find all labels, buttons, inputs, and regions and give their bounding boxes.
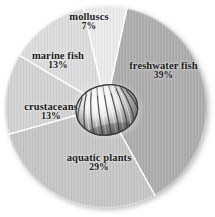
pie-label-aquatic-plants-percent: 29% <box>46 162 152 172</box>
pie-label-molluscs-percent: 7% <box>52 21 126 31</box>
pie-label-crustaceans: crustaceans 13% <box>8 101 94 122</box>
pie-label-molluscs: molluscs 7% <box>52 11 126 32</box>
pie-chart: molluscs 7% freshwater fish 39% marine f… <box>0 0 215 217</box>
pie-label-aquatic-plants: aquatic plants 29% <box>46 152 152 173</box>
pie-label-crustaceans-percent: 13% <box>8 111 94 121</box>
pie-label-freshwater-fish: freshwater fish 39% <box>116 60 211 81</box>
pie-label-marine-fish: marine fish 13% <box>18 50 98 71</box>
pie-label-marine-fish-percent: 13% <box>18 60 98 70</box>
pie-label-freshwater-fish-percent: 39% <box>116 70 211 80</box>
